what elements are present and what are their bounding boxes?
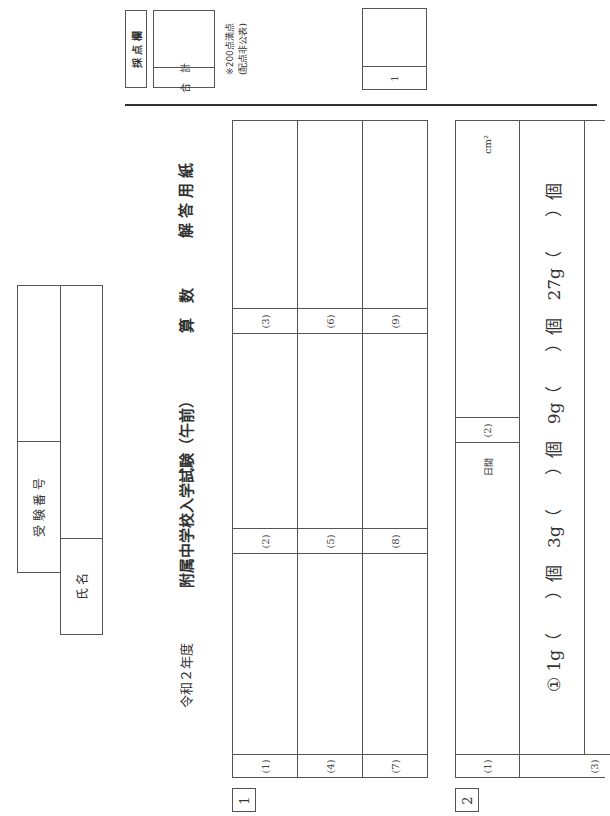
q1-3-label: (3) <box>233 309 297 333</box>
name-field[interactable] <box>61 286 102 538</box>
section1-score-box[interactable]: 1 <box>362 8 427 90</box>
scoring-header-label: 採 点 欄 <box>125 10 147 88</box>
section2-grid: (1) 日間 (2) cm² ① 1g（ ）個 3g（ ）個 9g（ ）個 27… <box>455 120 605 778</box>
score-note-line1: ※200点満点 <box>225 23 235 75</box>
total-score-box[interactable]: 合 計 <box>153 10 215 88</box>
exam-number-label: 受 験 番 号 <box>18 441 60 572</box>
section1-score-label: 1 <box>363 66 426 89</box>
name-label: 氏 名 <box>61 538 102 634</box>
q1-1-label: (1) <box>233 755 297 777</box>
q1-5-answer[interactable] <box>298 334 362 528</box>
header-divider <box>125 104 597 106</box>
q2-3-label: (3) <box>584 755 604 777</box>
q2-1-unit: 日間 <box>456 451 519 481</box>
q1-7-label: (7) <box>363 755 427 777</box>
title-sheet: 解 答 用 紙 <box>160 140 210 260</box>
section2-number: 2 <box>455 788 479 812</box>
q1-9-label: (9) <box>363 309 427 333</box>
score-note: ※200点満点 (配点非公表) <box>218 8 256 90</box>
q1-6-answer[interactable] <box>298 121 362 308</box>
score-note-line2: (配点非公表) <box>238 23 248 75</box>
q1-9-answer[interactable] <box>363 121 427 308</box>
name-box: 氏 名 <box>60 285 103 635</box>
exam-number-field[interactable] <box>18 286 60 441</box>
q1-8-answer[interactable] <box>363 334 427 528</box>
q1-6-label: (6) <box>298 309 362 333</box>
q1-3-answer[interactable] <box>233 121 297 308</box>
q1-2-answer[interactable] <box>233 334 297 528</box>
q1-2-label: (2) <box>233 529 297 553</box>
q1-1-answer[interactable] <box>233 554 297 754</box>
q1-4-answer[interactable] <box>298 554 362 754</box>
q2-1-label: (1) <box>456 755 519 777</box>
q1-8-label: (8) <box>363 529 427 553</box>
title-exam: 附属中学校入学試験（午前） <box>160 360 210 620</box>
q2-2-label: (2) <box>456 418 519 442</box>
title-year: 令和２年度 <box>160 630 210 720</box>
q2-2-answer[interactable] <box>456 121 519 417</box>
section1-grid: (1) (2) (3) (4) (5) (6) (7) (8) (9) <box>232 120 428 778</box>
total-score-label: 合 計 <box>154 67 214 87</box>
q1-7-answer[interactable] <box>363 554 427 754</box>
q2-1-answer[interactable] <box>456 443 519 754</box>
q1-4-label: (4) <box>298 755 362 777</box>
q2-2-unit: cm² <box>456 129 519 159</box>
q2-3-weights-line[interactable]: ① 1g（ ）個 3g（ ）個 9g（ ）個 27g（ ）個 <box>520 121 584 754</box>
exam-number-box: 受 験 番 号 <box>17 285 61 573</box>
q1-5-label: (5) <box>298 529 362 553</box>
title-subject: 算 数 <box>160 270 210 350</box>
section1-number: 1 <box>232 788 256 812</box>
